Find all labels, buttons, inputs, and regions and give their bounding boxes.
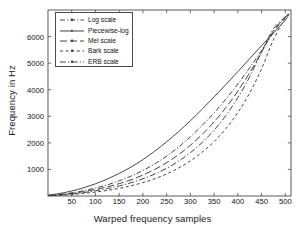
x-tick-label: 400 — [232, 197, 245, 206]
x-tick-label: 50 — [67, 197, 75, 206]
legend-label: Mel scale — [85, 36, 116, 46]
legend-line-sample — [59, 57, 85, 67]
y-tick-label: 6000 — [18, 32, 44, 41]
legend-item-mel-scale[interactable]: Mel scale — [56, 36, 132, 46]
legend-item-log-scale[interactable]: Log scale — [56, 15, 132, 25]
legend-label: Piecewise-log — [85, 26, 129, 36]
legend-label: Bark scale — [85, 46, 119, 56]
legend-line-sample — [59, 36, 85, 46]
legend-line-sample — [59, 26, 85, 36]
y-tick-label: 5000 — [18, 59, 44, 68]
y-tick-label: 1000 — [18, 165, 44, 174]
x-tick-label: 300 — [184, 197, 197, 206]
y-tick-label: 2000 — [18, 138, 44, 147]
x-tick-label: 150 — [113, 197, 126, 206]
y-axis-title: Frequency in Hz — [6, 36, 17, 166]
x-tick-label: 450 — [255, 197, 268, 206]
y-tick-label: 3000 — [18, 112, 44, 121]
x-tick-label: 350 — [208, 197, 221, 206]
legend-line-sample — [59, 46, 85, 56]
legend-label: Log scale — [85, 15, 116, 25]
x-tick-label: 100 — [89, 197, 102, 206]
x-tick-label: 200 — [137, 197, 150, 206]
legend-item-bark-scale[interactable]: Bark scale — [56, 46, 132, 56]
y-tick-label: 4000 — [18, 85, 44, 94]
x-axis-title: Warped frequency samples — [0, 213, 305, 224]
chart-legend: Log scalePiecewise-logMel scaleBark scal… — [55, 12, 133, 67]
legend-line-sample — [59, 15, 85, 25]
legend-item-erb-scale[interactable]: ERB scale — [56, 57, 132, 67]
x-tick-label: 500 — [279, 197, 292, 206]
legend-label: ERB scale — [85, 57, 119, 67]
chart-figure: Warped frequency samples Frequency in Hz… — [0, 0, 305, 237]
legend-item-piecewise-log[interactable]: Piecewise-log — [56, 25, 132, 35]
x-tick-label: 250 — [160, 197, 173, 206]
